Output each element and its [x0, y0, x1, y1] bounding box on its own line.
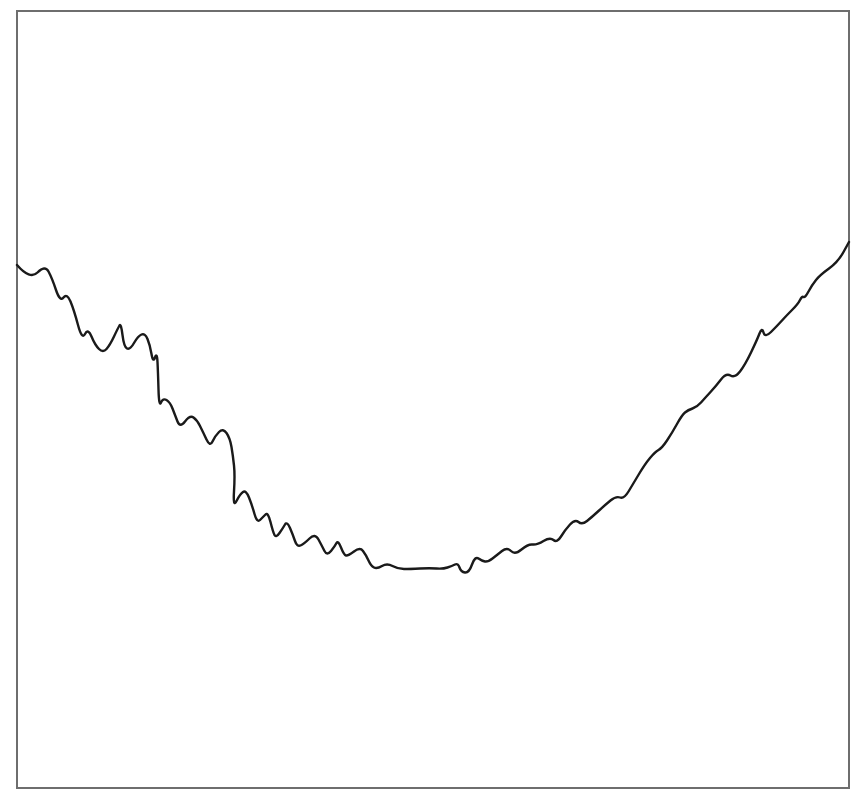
line-chart — [0, 0, 867, 801]
data-series-line — [17, 242, 849, 573]
plot-frame — [17, 11, 849, 788]
